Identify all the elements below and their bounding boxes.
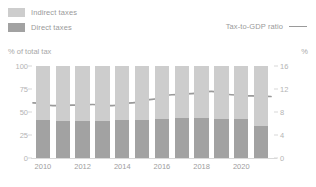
bar-segment-indirect-taxes	[214, 66, 228, 119]
legend-label-indirect-taxes: Indirect taxes	[31, 8, 77, 17]
legend-item-indirect-taxes: Indirect taxes	[8, 6, 77, 19]
bar-segment-direct-taxes	[75, 121, 89, 158]
y-axis-left-title: % of total tax	[8, 47, 51, 56]
legend-swatch-indirect-taxes	[8, 8, 25, 17]
legend-line-series: Tax-to-GDP ratio	[226, 22, 307, 31]
bar-segment-direct-taxes	[214, 119, 228, 158]
y-axis-right-tick: 12	[280, 85, 288, 94]
bar-segment-direct-taxes	[135, 120, 149, 158]
bar-segment-direct-taxes	[234, 119, 248, 158]
legend-line-swatch-tax-to-gdp-ratio	[289, 26, 307, 27]
y-axis-right-tickmark	[274, 66, 278, 67]
bar-segment-indirect-taxes	[95, 66, 109, 121]
x-axis-baseline	[31, 158, 277, 159]
bar-stack	[175, 66, 189, 158]
x-axis-tick: 2014	[114, 162, 131, 171]
y-axis-right-tick: 8	[280, 108, 284, 117]
bar-segment-indirect-taxes	[36, 66, 50, 120]
legend-label-direct-taxes: Direct taxes	[31, 23, 72, 32]
plot-area: 10075502501612840 2010201220142016201820…	[33, 66, 271, 158]
y-axis-right-tick: 0	[280, 154, 284, 163]
bar-segment-direct-taxes	[194, 118, 208, 158]
legend-swatch-direct-taxes	[8, 23, 25, 32]
bar-segment-direct-taxes	[95, 121, 109, 158]
legend-item-direct-taxes: Direct taxes	[8, 21, 77, 34]
x-axis-tick: 2016	[154, 162, 171, 171]
bar-segment-indirect-taxes	[234, 66, 248, 119]
y-axis-right-tick: 4	[280, 131, 284, 140]
y-axis-left-tickmark	[28, 135, 32, 136]
y-axis-left-tickmark	[28, 66, 32, 67]
x-axis-tick: 2020	[233, 162, 250, 171]
bar-segment-indirect-taxes	[155, 66, 169, 119]
bar-stack	[194, 66, 208, 158]
bar-segment-direct-taxes	[155, 119, 169, 158]
x-axis-tick: 2010	[35, 162, 52, 171]
bar-segment-indirect-taxes	[135, 66, 149, 120]
chart-root: Indirect taxes Direct taxes Tax-to-GDP r…	[0, 0, 316, 187]
bar-segment-direct-taxes	[36, 120, 50, 158]
x-axis-tick: 2018	[193, 162, 210, 171]
bar-segment-indirect-taxes	[194, 66, 208, 118]
bar-segment-indirect-taxes	[254, 66, 268, 126]
bar-stack	[155, 66, 169, 158]
y-axis-left-tick: 25	[20, 131, 28, 140]
bar-stack	[36, 66, 50, 158]
legend-bar-series: Indirect taxes Direct taxes	[8, 6, 77, 36]
bar-segment-direct-taxes	[115, 120, 129, 158]
bar-stack	[135, 66, 149, 158]
bar-segment-indirect-taxes	[75, 66, 89, 121]
y-axis-right-tick: 16	[280, 62, 288, 71]
bar-stack	[75, 66, 89, 158]
y-axis-right-tickmark	[274, 135, 278, 136]
y-axis-left-tickmark	[28, 112, 32, 113]
y-axis-left-tick: 75	[20, 85, 28, 94]
bar-stack	[95, 66, 109, 158]
bar-segment-indirect-taxes	[175, 66, 189, 118]
bar-stack	[254, 66, 268, 158]
legend-label-tax-to-gdp-ratio: Tax-to-GDP ratio	[226, 22, 283, 31]
y-axis-left-tick: 100	[15, 62, 28, 71]
bar-segment-direct-taxes	[254, 126, 268, 158]
bar-segment-direct-taxes	[175, 118, 189, 158]
bar-segment-direct-taxes	[56, 121, 70, 158]
bar-stack	[214, 66, 228, 158]
x-axis-tick: 2012	[74, 162, 91, 171]
y-axis-left-tick: 50	[20, 108, 28, 117]
y-axis-right-tickmark	[274, 89, 278, 90]
bar-segment-indirect-taxes	[115, 66, 129, 120]
bar-stack	[234, 66, 248, 158]
y-axis-right-tickmark	[274, 112, 278, 113]
plot-inner: 10075502501612840	[33, 66, 271, 158]
bar-stack	[115, 66, 129, 158]
bar-segment-indirect-taxes	[56, 66, 70, 121]
y-axis-left-tickmark	[28, 89, 32, 90]
bar-stack	[56, 66, 70, 158]
y-axis-right-title: %	[301, 47, 308, 56]
